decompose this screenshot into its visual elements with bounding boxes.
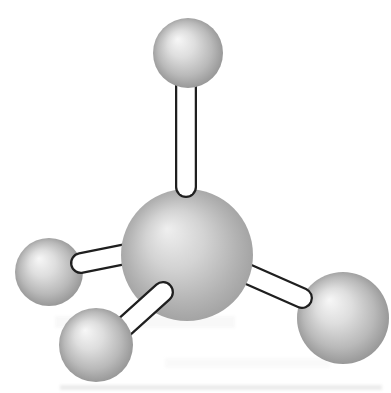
molecule-diagram xyxy=(0,0,391,393)
atom-top-sphere xyxy=(153,18,223,88)
scan-artifact xyxy=(165,358,330,368)
atom-left-sphere xyxy=(15,238,83,306)
scan-artifact xyxy=(60,385,382,390)
molecule-figure xyxy=(0,0,391,393)
atom-bottom-sphere xyxy=(59,308,133,382)
atom-right-sphere xyxy=(297,272,389,364)
